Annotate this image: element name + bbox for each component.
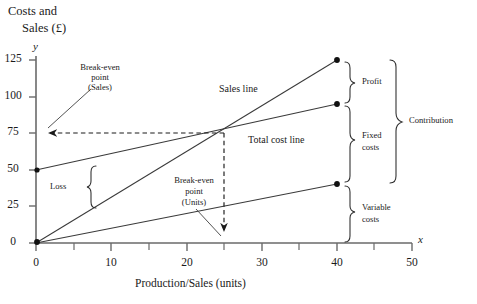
loss-bracket-label: Loss xyxy=(50,182,66,192)
chart-title-line1: Costs and xyxy=(8,4,57,18)
contribution-brace xyxy=(390,60,402,183)
x-tick-label-50: 50 xyxy=(398,256,426,269)
break-even-sales-annotation-line3: (Sales) xyxy=(57,83,143,93)
fixed-costs-bracket-label-line1: Fixed xyxy=(362,131,382,141)
variable-costs-bracket-label-line2: costs xyxy=(362,215,379,225)
y-tick-label-100: 100 xyxy=(0,89,26,102)
fixed-costs-bracket-label-line2: costs xyxy=(362,143,379,153)
origin-dot xyxy=(34,239,40,245)
x-tick-label-0: 0 xyxy=(22,256,50,269)
break-even-units-annotation-line2: point xyxy=(148,187,240,197)
y-tick-label-125: 125 xyxy=(0,52,26,65)
be-units-leader xyxy=(196,209,221,236)
be-sales-leader xyxy=(48,89,91,128)
sales-line-label: Sales line xyxy=(219,83,258,94)
y-axis-symbol: y xyxy=(33,40,38,52)
break-even-chart: Costs and Sales (£) y x 125 100 75 50 25… xyxy=(0,0,477,304)
y-tick-label-0: 0 xyxy=(0,235,26,248)
fixed-cost-intercept-dot xyxy=(34,167,39,172)
variable-costs-bracket-label-line1: Variable xyxy=(362,203,391,213)
fixed-costs-brace xyxy=(345,106,355,182)
break-even-units-annotation-line3: (Units) xyxy=(148,198,240,208)
x-tick-label-10: 10 xyxy=(97,256,125,269)
contribution-bracket-label: Contribution xyxy=(409,116,453,126)
total-cost-endpoint-dot xyxy=(334,101,340,107)
y-axis xyxy=(29,56,36,243)
y-tick-label-50: 50 xyxy=(0,162,26,175)
loss-brace xyxy=(87,166,96,208)
total-cost-line-label: Total cost line xyxy=(248,134,305,145)
profit-brace xyxy=(345,62,355,103)
chart-title-line2: Sales (£) xyxy=(22,21,66,35)
y-tick-label-25: 25 xyxy=(0,198,26,211)
profit-bracket-label: Profit xyxy=(362,77,382,87)
sales-endpoint-dot xyxy=(334,57,340,63)
x-axis-symbol: x xyxy=(418,233,423,245)
break-even-units-annotation-line1: Break-even xyxy=(148,176,240,186)
x-tick-label-20: 20 xyxy=(173,256,201,269)
y-tick-label-75: 75 xyxy=(0,125,26,138)
variable-cost-endpoint-dot xyxy=(334,181,340,187)
annotation-leaders xyxy=(48,89,221,236)
x-tick-label-30: 30 xyxy=(248,256,276,269)
variable-costs-brace xyxy=(345,186,355,242)
x-axis xyxy=(36,243,412,251)
x-tick-label-40: 40 xyxy=(323,256,351,269)
x-axis-label: Production/Sales (units) xyxy=(135,277,246,290)
